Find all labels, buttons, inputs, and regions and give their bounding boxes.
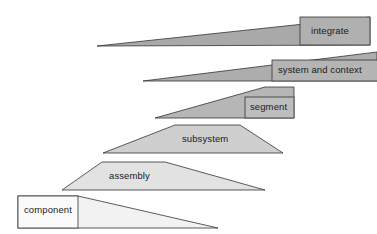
level-label-system-and-context: system and context [278, 65, 362, 75]
level-label-assembly: assembly [109, 171, 150, 181]
level-label-integrate: integrate [311, 26, 349, 36]
level-label-component: component [24, 205, 72, 215]
level-label-segment: segment [250, 102, 287, 112]
diagram-canvas: integrate system and context segment sub… [0, 0, 377, 234]
level-label-subsystem: subsystem [182, 134, 228, 144]
level-shape-assembly [62, 162, 265, 190]
wedge-assembly [62, 162, 265, 190]
